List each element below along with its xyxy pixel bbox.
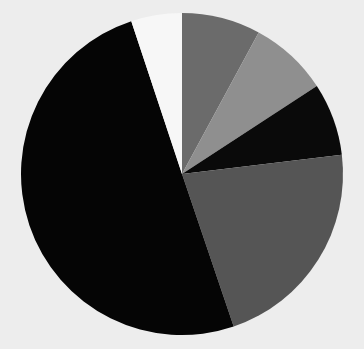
pie-chart [0, 0, 364, 349]
